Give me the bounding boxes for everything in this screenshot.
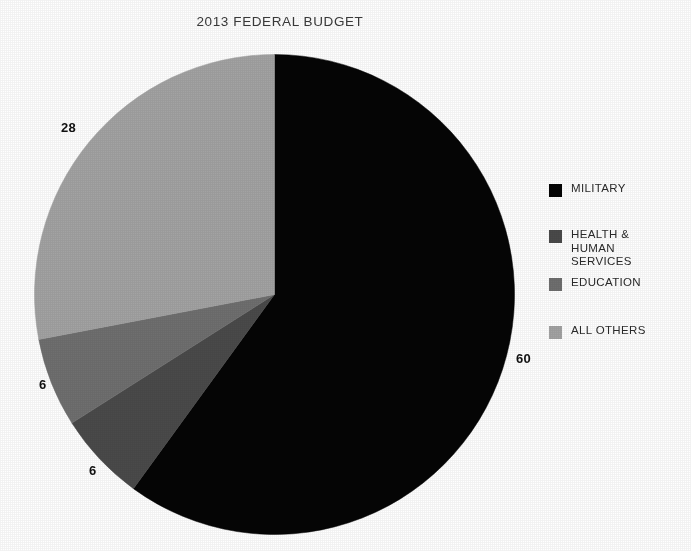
pie-slice-group <box>34 55 514 535</box>
pie-chart <box>34 54 515 535</box>
page-title: 2013 FEDERAL BUDGET <box>0 14 560 29</box>
pie-chart-figure: 2013 FEDERAL BUDGET 28 60 6 6 MILITARY H… <box>0 0 691 551</box>
legend-item-military: MILITARY <box>549 182 626 197</box>
legend-item-education: EDUCATION <box>549 276 641 291</box>
legend-label-all-others: ALL OTHERS <box>571 324 646 338</box>
slice-value-label-health-human-services: 6 <box>89 463 97 478</box>
slice-value-label-education: 6 <box>39 377 47 392</box>
slice-value-label-military: 60 <box>516 351 531 366</box>
legend-item-all-others: ALL OTHERS <box>549 324 646 339</box>
pie-slice-all-others <box>34 55 274 340</box>
legend-item-health-human-services: HEALTH & HUMAN SERVICES <box>549 228 632 269</box>
legend-label-education: EDUCATION <box>571 276 641 290</box>
legend-swatch-icon-health-human-services <box>549 230 562 243</box>
pie-svg <box>34 54 515 535</box>
slice-value-label-all-others: 28 <box>61 120 76 135</box>
legend-swatch-icon-all-others <box>549 326 562 339</box>
legend-swatch-icon-education <box>549 278 562 291</box>
legend-label-health-human-services: HEALTH & HUMAN SERVICES <box>571 228 632 269</box>
legend-label-military: MILITARY <box>571 182 626 196</box>
legend-swatch-icon-military <box>549 184 562 197</box>
